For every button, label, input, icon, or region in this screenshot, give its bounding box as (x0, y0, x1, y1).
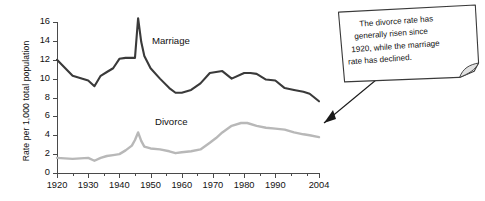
y-tick-label: 6 (45, 112, 50, 121)
y-tick-label: 14 (40, 36, 50, 45)
x-tick-label: 1960 (171, 181, 192, 190)
y-axis-title: Rate per 1,000 total population (21, 21, 31, 181)
y-tick-label: 10 (40, 74, 50, 83)
x-tick-major (119, 173, 120, 178)
y-tick-label: 0 (45, 168, 50, 177)
x-tick-minor (104, 173, 105, 176)
series-label-marriage: Marriage (152, 35, 190, 46)
callout-text: The divorce rate has generally risen sin… (349, 11, 471, 69)
x-tick-label: 1980 (234, 181, 255, 190)
x-tick-major (182, 173, 183, 178)
x-axis-line (57, 173, 319, 174)
y-tick-label: 12 (40, 55, 50, 64)
x-tick-major (275, 173, 276, 178)
x-tick-label: 2004 (309, 181, 330, 190)
x-tick-label: 1930 (78, 181, 99, 190)
x-tick-major (151, 173, 152, 178)
y-tick-label: 2 (45, 149, 50, 158)
x-tick-minor (135, 173, 136, 176)
callout-arrow-icon (300, 78, 390, 138)
x-tick-major (213, 173, 214, 178)
x-tick-label: 1970 (203, 181, 224, 190)
x-tick-label: 1920 (47, 181, 68, 190)
x-tick-minor (307, 173, 308, 176)
y-tick-label: 4 (45, 131, 50, 140)
x-tick-minor (229, 173, 230, 176)
x-tick-major (244, 173, 245, 178)
x-tick-minor (166, 173, 167, 176)
callout-note: The divorce rate has generally risen sin… (337, 1, 481, 87)
x-tick-minor (197, 173, 198, 176)
x-tick-minor (291, 173, 292, 176)
x-tick-major (88, 173, 89, 178)
series-line-divorce (57, 123, 319, 161)
y-tick-label: 8 (45, 93, 50, 102)
x-tick-minor (73, 173, 74, 176)
x-tick-major (319, 173, 320, 178)
x-tick-label: 1940 (109, 181, 130, 190)
y-tick-label: 16 (40, 17, 50, 26)
series-label-divorce: Divorce (155, 116, 188, 127)
series-line-marriage (57, 18, 319, 101)
x-tick-label: 1990 (265, 181, 286, 190)
x-tick-minor (260, 173, 261, 176)
chart-root: Rate per 1,000 total population 02468101… (0, 0, 485, 201)
x-tick-major (57, 173, 58, 178)
x-tick-label: 1950 (140, 181, 161, 190)
